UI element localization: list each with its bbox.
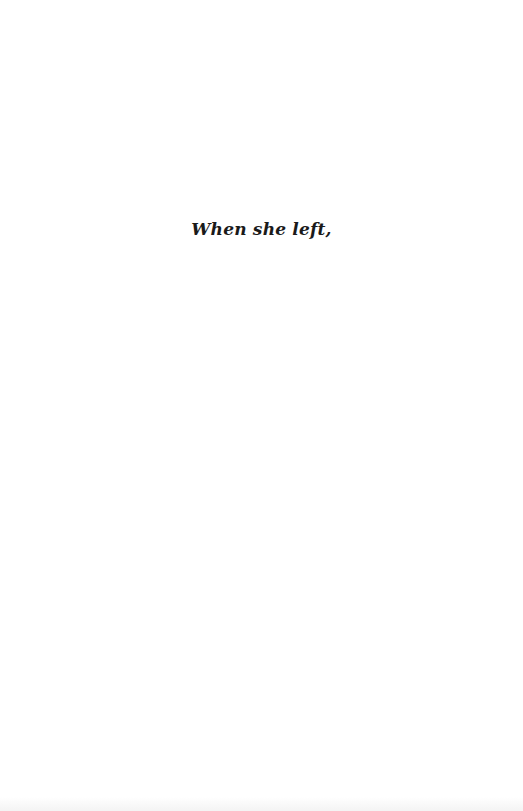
epigraph-text: When she left, <box>0 219 523 239</box>
book-page: When she left, <box>0 0 523 811</box>
page-edge-shadow <box>0 797 523 811</box>
